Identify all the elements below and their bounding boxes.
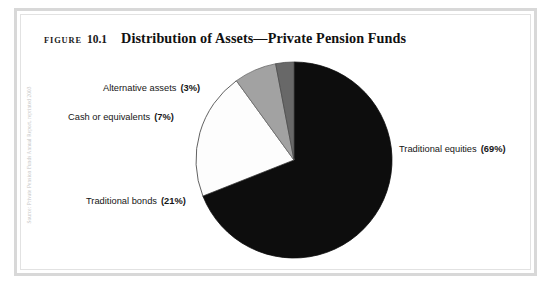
figure-number: 10.1 [87, 33, 107, 45]
label-traditional-equities-text: Traditional equities [399, 144, 477, 154]
label-traditional-bonds-pct: (21%) [161, 196, 186, 206]
figure-heading: Distribution of Assets—Private Pension F… [121, 30, 406, 47]
figure-title: FIGURE 10.1 Distribution of Assets—Priva… [44, 30, 406, 47]
label-cash-or-equivalents: Cash or equivalents(7%) [68, 113, 174, 122]
margin-source-credit: Source: Private Pension Funds Annual Rep… [26, 70, 32, 240]
figure-label-word: FIGURE [44, 36, 82, 45]
figure-container: Source: Private Pension Funds Annual Rep… [0, 0, 551, 290]
label-alternative-assets: Alternative assets(3%) [103, 84, 200, 93]
label-traditional-bonds: Traditional bonds(21%) [86, 197, 186, 206]
label-traditional-equities-pct: (69%) [481, 144, 506, 154]
label-cash-or-equivalents-text: Cash or equivalents [68, 112, 150, 122]
figure-frame-inner [20, 14, 531, 270]
label-alternative-assets-text: Alternative assets [103, 83, 176, 93]
label-cash-or-equivalents-pct: (7%) [154, 112, 174, 122]
label-traditional-equities: Traditional equities(69%) [399, 145, 506, 154]
label-traditional-bonds-text: Traditional bonds [86, 196, 157, 206]
label-alternative-assets-pct: (3%) [180, 83, 200, 93]
